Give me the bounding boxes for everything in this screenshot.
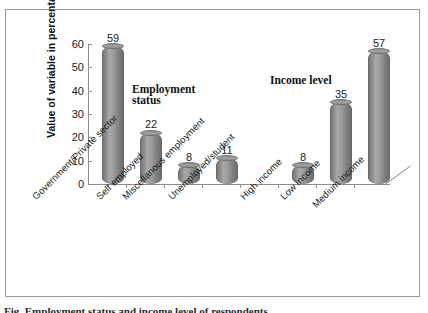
y-tick-label-40: 40	[64, 86, 84, 96]
y-tick-label-0: 0	[64, 179, 84, 189]
y-axis-title: Value of variable in percentage	[45, 0, 57, 138]
annotation-line-1: Income level	[270, 75, 332, 86]
chart-frame: Value of variable in percentage 60 50 40…	[5, 9, 420, 297]
x-tick-mark	[164, 184, 165, 188]
x-tick-mark	[316, 184, 317, 188]
bar-value-label: 22	[145, 118, 157, 130]
figure-caption: Fig. Employment status and income level …	[4, 305, 424, 313]
bar-value-label: 59	[107, 32, 119, 44]
bar-cylinder	[216, 158, 238, 184]
x-tick-mark	[278, 184, 279, 188]
bar-value-label: 8	[300, 151, 306, 163]
y-tick-label-20: 20	[64, 132, 84, 142]
annotation-income-level: Income level	[270, 75, 332, 86]
x-tick-mark	[354, 184, 355, 188]
bar-value-label: 35	[335, 88, 347, 100]
x-tick-mark	[202, 184, 203, 188]
y-tick-label-60: 60	[64, 39, 84, 49]
bar-cylinder	[368, 51, 390, 184]
bar-medium-income[interactable]: 57	[368, 51, 390, 184]
figure-container: Value of variable in percentage 60 50 40…	[0, 0, 428, 313]
y-tick-label-50: 50	[64, 62, 84, 72]
x-tick-mark	[240, 184, 241, 188]
annotation-employment-status: Employment status	[132, 84, 195, 106]
bar-value-label: 8	[186, 151, 192, 163]
bar-unemployed-student[interactable]: 11	[216, 158, 238, 184]
annotation-line-2: status	[132, 95, 195, 106]
y-tick-label-30: 30	[64, 109, 84, 119]
